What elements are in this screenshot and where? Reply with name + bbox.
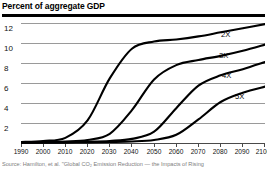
x-tick-label-2100: 2100 <box>256 148 267 156</box>
y-tick-label-12: 12 <box>4 24 19 33</box>
y-tick-label-4: 4 <box>4 104 19 113</box>
chart-title: Percent of aggregate GDP <box>2 1 105 12</box>
x-tick-label-2060: 2060 <box>169 148 184 156</box>
x-tick-label-2010: 2010 <box>58 148 73 156</box>
x-tick-label-2000: 2000 <box>36 148 51 156</box>
x-tick-label-2040: 2040 <box>124 148 139 156</box>
x-tick-label-2050: 2050 <box>147 148 162 156</box>
chart-figure: Percent of aggregate GDP 12 10 8 6 4 2 1… <box>0 0 267 169</box>
series-label-3X: 3X <box>219 51 228 60</box>
y-tick-label-6: 6 <box>4 84 19 93</box>
y-tick-label-10: 10 <box>4 44 19 53</box>
y-tick-label-8: 8 <box>4 64 19 73</box>
series-label-5X: 5X <box>235 92 244 101</box>
x-tick-label-2070: 2070 <box>191 148 206 156</box>
y-tick-label-2: 2 <box>4 124 19 133</box>
series-curve-2X <box>21 24 265 142</box>
series-label-4X: 4X <box>222 71 231 80</box>
source-note: Source: Hamilton, et al. "Global CO₂ Emi… <box>2 161 265 168</box>
x-tick-label-2090: 2090 <box>235 148 250 156</box>
x-tick-label-2030: 2030 <box>102 148 117 156</box>
series-label-2X: 2X <box>221 30 230 39</box>
x-tick-label-2080: 2080 <box>213 148 228 156</box>
series-curve-3X <box>21 45 265 143</box>
x-tick-label-1990: 1990 <box>14 148 29 156</box>
title-divider <box>2 14 265 17</box>
x-tick-label-2020: 2020 <box>80 148 95 156</box>
